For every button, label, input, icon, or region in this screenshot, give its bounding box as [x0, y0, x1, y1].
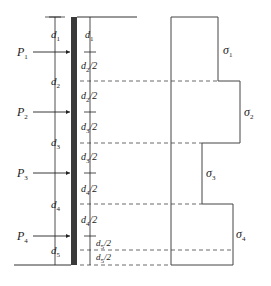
dim-d3-half-upper: d3/2 [81, 121, 97, 135]
dim-d1-left: d1 [51, 28, 61, 43]
load-label-p3: P3 [16, 166, 28, 182]
dim-d2-half-upper: d2/2 [81, 60, 97, 74]
wall-stress-diagram: P1 P2 P3 P4 d1 d2 d3 d4 d5 d1 d2/2 d2/2 … [0, 0, 271, 286]
dim-d5-half-lower: d5/2 [96, 252, 112, 265]
dim-d3-half-lower: d3/2 [81, 151, 97, 165]
dim-d1-right: d1 [85, 29, 94, 43]
dim-d3-left: d3 [51, 136, 61, 151]
stress-label-s1: σ1 [223, 43, 233, 59]
wall [71, 17, 77, 265]
dim-d2-half-lower: d2/2 [81, 90, 97, 104]
stress-label-s4: σ4 [236, 227, 246, 243]
load-label-p4: P4 [16, 229, 28, 245]
load-label-p2: P2 [16, 105, 28, 121]
dim-d5-half-upper: d5/2 [96, 238, 112, 251]
dim-d4-half-upper: d4/2 [81, 183, 97, 197]
stress-label-s2: σ2 [244, 105, 254, 121]
stress-label-s3: σ3 [206, 166, 216, 182]
dim-d2-left: d2 [51, 75, 61, 90]
dim-d4-left: d4 [51, 198, 61, 213]
load-label-p1: P1 [16, 45, 28, 61]
dim-d5-left: d5 [51, 244, 61, 259]
dim-d4-half-lower: d4/2 [81, 214, 97, 228]
